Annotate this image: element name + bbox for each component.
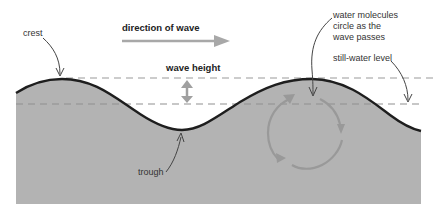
wave-height-arrow-icon: [181, 80, 193, 103]
crest-label: crest: [23, 28, 43, 39]
direction-of-wave-label: direction of wave: [122, 22, 200, 33]
wave-height-label: wave height: [166, 62, 220, 73]
crest-pointer-icon: [43, 38, 64, 76]
molecules-label-line2: circle as the: [333, 21, 381, 32]
direction-arrow-icon: [122, 35, 230, 47]
trough-label: trough: [138, 167, 164, 178]
still-water-pointer-icon: [391, 61, 412, 102]
molecules-label-line1: water molecules: [333, 10, 398, 21]
still-water-level-label: still-water level: [333, 53, 392, 64]
water-body: [16, 79, 421, 204]
molecules-label-line3: wave passes: [333, 32, 385, 43]
